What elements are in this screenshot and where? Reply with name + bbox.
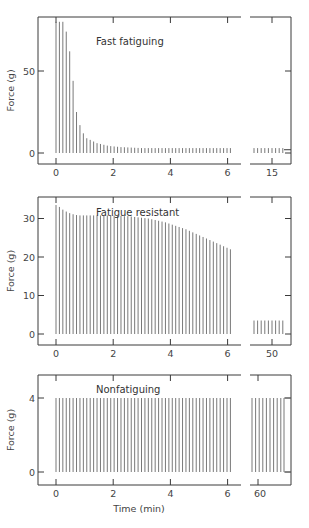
panel-nonfatiguing: 04024660NonfatiguingForce (g)	[5, 375, 291, 499]
x-tick-label: 0	[53, 167, 59, 178]
break-frame	[250, 197, 291, 345]
x-tick-label: 0	[53, 348, 59, 359]
break-frame	[250, 375, 291, 485]
x-tick-label: 4	[167, 167, 173, 178]
panel-title: Fast fatiguing	[96, 36, 164, 47]
panel-fatigue-resistant: 0102030024650Fatigue resistantForce (g)	[5, 197, 291, 359]
x-tick-label: 2	[110, 167, 116, 178]
y-tick-label: 0	[29, 467, 35, 478]
y-tick-label: 10	[23, 290, 35, 301]
x-break-tick-label: 60	[254, 488, 266, 499]
x-tick-label: 6	[225, 488, 231, 499]
x-tick-label: 0	[53, 488, 59, 499]
panel-title: Fatigue resistant	[96, 207, 179, 218]
main-frame	[38, 197, 241, 345]
y-axis-title: Force (g)	[5, 250, 16, 292]
panel-title: Nonfatiguing	[96, 384, 160, 395]
x-tick-label: 4	[167, 348, 173, 359]
y-tick-label: 0	[29, 148, 35, 159]
fatigue-force-chart: 050024615Fast fatiguingForce (g)01020300…	[0, 0, 309, 528]
x-break-tick-label: 50	[266, 348, 278, 359]
x-tick-label: 4	[167, 488, 173, 499]
x-tick-label: 6	[225, 167, 231, 178]
y-axis-title: Force (g)	[5, 69, 16, 111]
x-tick-label: 6	[225, 348, 231, 359]
x-break-tick-label: 15	[266, 167, 278, 178]
y-tick-label: 20	[23, 252, 35, 263]
x-tick-label: 2	[110, 348, 116, 359]
y-tick-label: 30	[23, 213, 35, 224]
x-tick-label: 2	[110, 488, 116, 499]
panel-fast-fatiguing: 050024615Fast fatiguingForce (g)	[5, 17, 291, 178]
break-frame	[250, 17, 291, 164]
y-tick-label: 50	[23, 66, 35, 77]
y-axis-title: Force (g)	[5, 409, 16, 451]
x-axis-title: Time (min)	[112, 503, 165, 514]
y-tick-label: 0	[29, 329, 35, 340]
y-tick-label: 4	[29, 393, 35, 404]
